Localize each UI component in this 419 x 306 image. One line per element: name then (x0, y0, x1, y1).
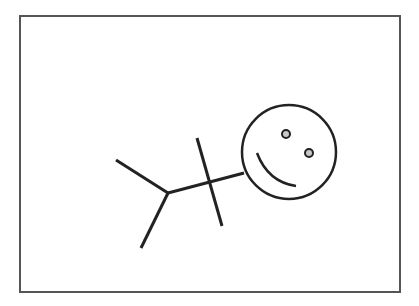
eye-right-icon (305, 149, 313, 157)
leg-lower (141, 193, 168, 248)
frame-border (20, 16, 400, 292)
spine (168, 173, 244, 193)
stick-figure-drawing (0, 0, 419, 306)
leg-upper (116, 160, 168, 193)
eye-left-icon (282, 130, 290, 138)
arms (197, 138, 222, 226)
